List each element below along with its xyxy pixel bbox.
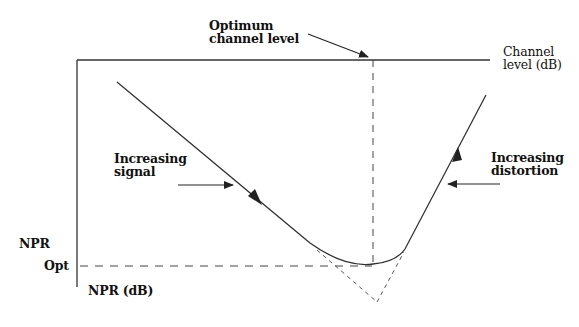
npr-curve bbox=[117, 82, 486, 265]
optimum-label-line2: channel level bbox=[209, 32, 299, 45]
distortion-label-line2: distortion bbox=[491, 164, 558, 177]
x-axis-label-line2: level (dB) bbox=[503, 58, 562, 71]
optimum-pointer-arrow bbox=[308, 34, 368, 57]
npr-opt-label-line2: Opt bbox=[44, 259, 69, 272]
signal-label-line2: signal bbox=[114, 165, 155, 178]
signal-asymptote-line bbox=[317, 250, 377, 302]
npr-opt-label-line1: NPR bbox=[19, 237, 50, 250]
y-axis-label: NPR (dB) bbox=[88, 284, 153, 297]
signal-direction-arrowhead-icon bbox=[248, 189, 262, 205]
